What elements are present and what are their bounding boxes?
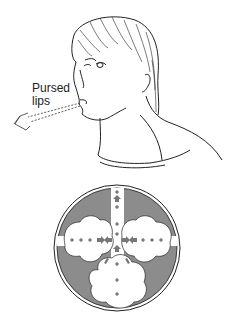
person-figure (72, 17, 222, 168)
pursed-lips-label: Pursed lips (32, 82, 70, 108)
label-line-2: lips (32, 95, 70, 108)
illustration (0, 0, 241, 316)
alveoli-inset (54, 185, 180, 311)
